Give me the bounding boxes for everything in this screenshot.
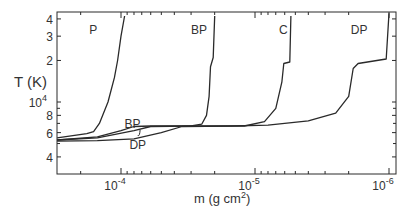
y-tick-label: 2 <box>46 54 53 68</box>
curve-label-bp: BP <box>191 23 207 37</box>
temperature-column-mass-chart: 432104864 10-410-510-6 PBPBPCDPDP T (K) … <box>0 0 414 215</box>
curve-label-p: P <box>89 23 97 37</box>
plot-frame <box>57 12 396 174</box>
y-tick-label: 6 <box>46 127 53 141</box>
curve-label-dp: DP <box>351 23 368 37</box>
y-axis-ticks: 432104864 <box>29 13 396 165</box>
dp-pointer-arrow <box>138 130 140 136</box>
x-tick-exponent: -4 <box>118 176 126 186</box>
x-axis-label: m (g cm2) <box>194 190 250 206</box>
curve-dp <box>57 13 389 141</box>
x-axis-label-base: m (g cm <box>194 191 241 206</box>
x-tick-exponent: -6 <box>386 176 394 186</box>
curve-label-bp-lower: BP <box>125 117 141 131</box>
x-tick-label: 10-4 <box>104 176 125 193</box>
y-tick-label: 8 <box>46 109 53 123</box>
curve-labels: PBPBPCDPDP <box>89 23 367 152</box>
y-tick-exponent: 4 <box>42 93 47 103</box>
y-tick-label: 4 <box>46 151 53 165</box>
y-tick-label: 104 <box>29 93 47 110</box>
curve-label-c: C <box>279 23 288 37</box>
curves <box>57 13 389 141</box>
curve-label-dp-lower: DP <box>129 138 146 152</box>
y-axis-label: T (K) <box>14 73 47 90</box>
y-tick-label: 3 <box>46 30 53 44</box>
y-tick-label: 4 <box>46 13 53 27</box>
x-axis-ticks: 10-410-510-6 <box>81 12 394 193</box>
x-tick-exponent: -5 <box>252 176 260 186</box>
plot-border <box>57 12 396 174</box>
x-axis-label-tail: ) <box>246 191 250 206</box>
x-tick-label: 10-6 <box>372 176 393 193</box>
